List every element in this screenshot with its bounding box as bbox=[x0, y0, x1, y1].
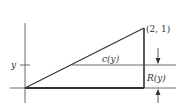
up-arrow-icon bbox=[156, 89, 161, 103]
y-axis-tick-label: y bbox=[10, 60, 17, 70]
radius-label: R(y) bbox=[146, 73, 166, 83]
diagram-canvas: (2, 1) y c(y) R(y) bbox=[0, 0, 184, 107]
vertex-label: (2, 1) bbox=[146, 24, 170, 34]
triangle-hypotenuse bbox=[25, 28, 144, 88]
down-arrow-icon bbox=[156, 48, 161, 64]
chord-label: c(y) bbox=[102, 54, 120, 64]
